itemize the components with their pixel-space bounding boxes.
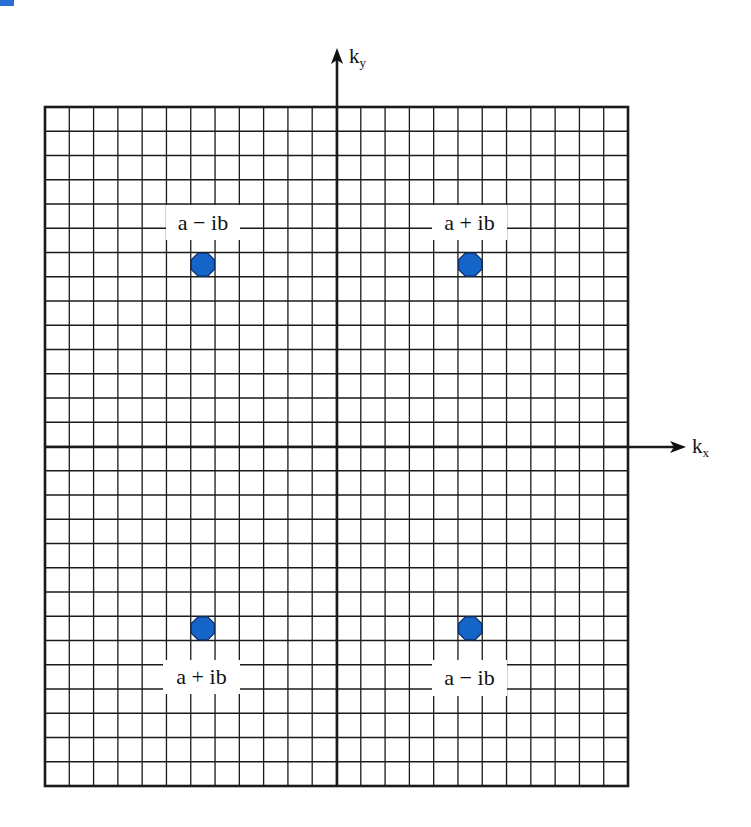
- kx-label-main: k: [692, 434, 703, 458]
- label-lower-left: a + ib: [163, 660, 240, 694]
- label-upper-right: a + ib: [432, 205, 507, 240]
- kx-label-sub: x: [703, 445, 710, 460]
- label-lower-right: a − ib: [432, 660, 507, 696]
- pole-marker-upper-left: [191, 253, 214, 276]
- k-plane-grid: [0, 0, 751, 827]
- ky-label-main: k: [349, 44, 360, 68]
- diagram-canvas: ky kx a − ib a + ib a + ib a − ib: [0, 0, 751, 827]
- label-upper-left: a − ib: [166, 205, 240, 240]
- kx-axis-label: kx: [692, 436, 709, 459]
- pole-marker-lower-left: [191, 617, 214, 640]
- pole-marker-upper-right: [459, 253, 482, 276]
- ky-axis-label: ky: [349, 46, 366, 69]
- pole-marker-lower-right: [459, 617, 482, 640]
- ky-label-sub: y: [360, 55, 367, 70]
